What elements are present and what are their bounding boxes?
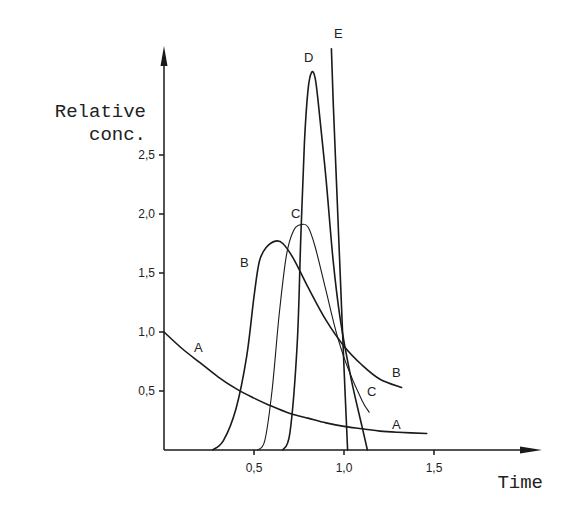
x-axis-title: Time (497, 472, 543, 494)
curve-label-b-end: B (392, 365, 401, 380)
x-tick-label: 1,0 (336, 461, 353, 475)
x-tick-label: 0,5 (246, 461, 263, 475)
chart-canvas: 0,5 1,0 1,5 2,0 2,5 0,5 1,0 1,5 Relative… (0, 0, 574, 517)
curves (164, 49, 427, 450)
y-tick-label: 2,5 (138, 148, 155, 162)
curve-label-a: A (194, 340, 203, 355)
curve-label-c: C (291, 206, 300, 221)
axes (159, 46, 542, 455)
curve-label-b: B (240, 255, 249, 270)
x-tick-labels: 0,5 1,0 1,5 (246, 461, 443, 475)
curve-label-c-end: C (367, 384, 376, 399)
curve-label-d: D (304, 50, 313, 65)
y-axis-title-line2: conc. (89, 124, 146, 146)
y-axis-title-line1: Relative (55, 101, 146, 123)
y-tick-labels: 0,5 1,0 1,5 2,0 2,5 (138, 148, 155, 398)
curve-c (258, 224, 370, 450)
curve-e (331, 49, 347, 450)
y-tick-label: 0,5 (138, 384, 155, 398)
curve-label-e: E (334, 26, 343, 41)
y-tick-label: 1,0 (138, 325, 155, 339)
y-tick-label: 2,0 (138, 207, 155, 221)
x-axis-arrow-icon (520, 447, 542, 454)
y-axis-arrow-icon (161, 46, 168, 66)
x-tick-label: 1,5 (426, 461, 443, 475)
y-tick-label: 1,5 (138, 266, 155, 280)
curve-label-a-end: A (392, 417, 401, 432)
